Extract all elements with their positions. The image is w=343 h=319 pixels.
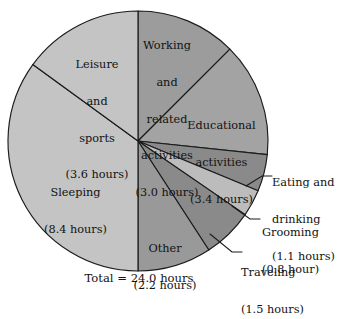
label-line: Other (129, 243, 201, 255)
slice-label-other: Other (2.2 hours) (129, 219, 201, 317)
label-line: and (131, 77, 203, 89)
slice-label-sleeping: Sleeping (8.4 hours) (28, 163, 123, 261)
label-line: Educational (174, 120, 269, 132)
label-line: Leisure (57, 59, 137, 71)
slice-label-educational-activities: Educational activities (3.4 hours) (174, 96, 269, 230)
label-value: (3.4 hours) (174, 194, 269, 206)
label-value: (8.4 hours) (28, 224, 123, 236)
chart-total-caption: Total = 24.0 hours (0, 271, 278, 285)
label-value: (1.5 hours) (241, 304, 343, 316)
label-line: and (57, 96, 137, 108)
label-line: sports (57, 133, 137, 145)
label-line: Working (131, 40, 203, 52)
label-line: activities (174, 157, 269, 169)
label-line: Eating and (272, 177, 343, 189)
label-line: Grooming (262, 227, 343, 239)
label-line: Sleeping (28, 187, 123, 199)
